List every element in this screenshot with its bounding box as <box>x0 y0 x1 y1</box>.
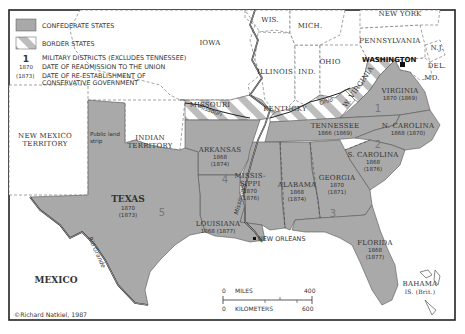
svg-text:1866 (1869): 1866 (1869) <box>318 130 353 136</box>
new-orleans-marker: NEW ORLEANS <box>253 235 305 243</box>
svg-text:FLORIDA: FLORIDA <box>357 239 393 247</box>
legend-reest-label-2: CONSERVATIVE GOVERNMENT <box>42 79 138 87</box>
svg-text:ARKANSAS: ARKANSAS <box>198 146 242 154</box>
svg-text:MILES: MILES <box>235 287 253 294</box>
svg-text:(1874): (1874) <box>211 161 230 167</box>
svg-text:ILLINOIS: ILLINOIS <box>257 68 293 76</box>
svg-text:PENNSYLVANIA: PENNSYLVANIA <box>359 37 421 45</box>
legend-readmit-label: DATE OF READMISSION TO THE UNION <box>42 63 166 71</box>
svg-text:TERRITORY: TERRITORY <box>23 140 68 148</box>
svg-text:TENNESSEE: TENNESSEE <box>311 122 360 130</box>
svg-text:1870 (1869): 1870 (1869) <box>383 95 418 101</box>
svg-text:N. CAROLINA: N. CAROLINA <box>382 122 435 130</box>
legend-confederate-label: CONFEDERATE STATES <box>42 22 114 30</box>
svg-text:1868: 1868 <box>366 159 381 165</box>
svg-text:4: 4 <box>222 174 228 185</box>
svg-text:KENTUCKY: KENTUCKY <box>263 105 307 113</box>
svg-text:NEW ORLEANS: NEW ORLEANS <box>258 235 305 243</box>
svg-text:1868: 1868 <box>368 247 383 253</box>
svg-text:OHIO: OHIO <box>319 58 340 66</box>
svg-text:2: 2 <box>375 139 381 150</box>
legend-reest-year: (1873) <box>16 73 34 79</box>
svg-text:DEL.: DEL. <box>428 62 446 70</box>
svg-text:WIS.: WIS. <box>261 16 279 24</box>
svg-text:1868: 1868 <box>213 154 228 160</box>
bahama-label-2: IS. (Brit.) <box>405 288 435 295</box>
reconstruction-map: CONFEDERATE STATES BORDER STATES 1 MILIT… <box>0 0 465 334</box>
svg-text:1870: 1870 <box>330 182 345 188</box>
svg-text:KILOMETERS: KILOMETERS <box>235 305 273 312</box>
svg-text:INDIAN: INDIAN <box>135 134 165 142</box>
legend-district-label: MILITARY DISTRICTS (EXCLUDES TENNESSEE) <box>42 54 186 62</box>
svg-text:NEW MEXICO: NEW MEXICO <box>18 132 72 140</box>
mexico-label: MEXICO <box>34 275 77 285</box>
svg-text:1: 1 <box>375 103 381 114</box>
svg-text:S. CAROLINA: S. CAROLINA <box>347 151 399 159</box>
svg-text:(1871): (1871) <box>328 189 347 195</box>
svg-text:0: 0 <box>222 287 226 294</box>
svg-text:VIRGINIA: VIRGINIA <box>381 87 420 95</box>
legend-border-swatch <box>16 37 36 49</box>
svg-text:NEW YORK: NEW YORK <box>378 10 422 18</box>
svg-text:MICH.: MICH. <box>298 22 323 30</box>
svg-text:1868 (1870): 1868 (1870) <box>391 130 426 136</box>
svg-text:IOWA: IOWA <box>199 39 221 47</box>
legend-district-num: 1 <box>23 54 29 64</box>
svg-text:(1877): (1877) <box>366 254 385 260</box>
svg-text:(1876): (1876) <box>364 166 383 172</box>
svg-text:MD.: MD. <box>424 74 439 82</box>
svg-text:TERRITORY: TERRITORY <box>128 142 173 150</box>
svg-text:3: 3 <box>330 208 336 219</box>
credit-label: ©Richard Natkiel, 1987 <box>14 311 87 318</box>
svg-text:1870: 1870 <box>121 205 136 211</box>
bahama-label-1: BAHAMA <box>403 280 439 288</box>
svg-text:1868 (1877): 1868 (1877) <box>201 228 236 234</box>
svg-text:400: 400 <box>304 287 316 294</box>
svg-text:5: 5 <box>159 207 165 218</box>
svg-text:(1874): (1874) <box>288 196 307 202</box>
legend-confederate-swatch <box>16 19 36 31</box>
legend-border-label: BORDER STATES <box>42 40 95 48</box>
svg-text:1868: 1868 <box>290 189 305 195</box>
svg-text:WASHINGTON: WASHINGTON <box>362 56 417 64</box>
legend-readmit-year: 1870 <box>19 64 33 70</box>
svg-text:ALABAMA: ALABAMA <box>277 181 317 189</box>
svg-text:strip: strip <box>90 138 103 145</box>
svg-text:0: 0 <box>222 305 226 312</box>
svg-text:Public land: Public land <box>90 131 120 137</box>
svg-text:LOUISIANA: LOUISIANA <box>196 220 241 228</box>
svg-text:MISSIS-: MISSIS- <box>235 172 266 180</box>
svg-text:IND.: IND. <box>298 68 315 76</box>
svg-text:600: 600 <box>302 305 314 312</box>
svg-text:TEXAS: TEXAS <box>111 194 145 204</box>
svg-text:N.J.: N.J. <box>430 44 443 52</box>
svg-text:(1873): (1873) <box>119 212 138 218</box>
city-icon <box>253 237 256 240</box>
svg-text:GEORGIA: GEORGIA <box>319 174 356 182</box>
